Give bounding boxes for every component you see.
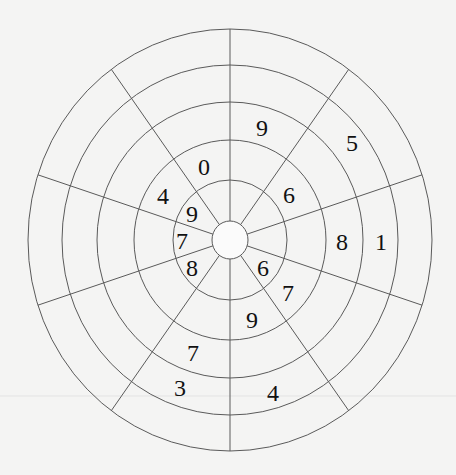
center-hub bbox=[212, 221, 248, 259]
cell-number: 8 bbox=[186, 255, 198, 281]
cell-number: 5 bbox=[346, 130, 358, 156]
cell-number: 7 bbox=[282, 280, 294, 306]
cell-number: 9 bbox=[256, 115, 268, 141]
cell-number: 7 bbox=[176, 228, 188, 254]
cell-number: 8 bbox=[336, 229, 348, 255]
numbers-group: 9504697818679734 bbox=[157, 115, 387, 406]
cell-number: 9 bbox=[186, 201, 198, 227]
cell-number: 6 bbox=[283, 182, 295, 208]
spoke-5 bbox=[111, 255, 219, 410]
cell-number: 9 bbox=[246, 307, 258, 333]
cell-number: 7 bbox=[187, 340, 199, 366]
cell-number: 3 bbox=[174, 375, 186, 401]
cell-number: 0 bbox=[198, 154, 210, 180]
cell-number: 4 bbox=[267, 380, 279, 406]
cell-number: 4 bbox=[157, 183, 169, 209]
cell-number: 1 bbox=[375, 229, 387, 255]
cell-number: 6 bbox=[257, 255, 269, 281]
spoke-9 bbox=[247, 175, 422, 234]
number-wheel: 9504697818679734 bbox=[0, 0, 456, 475]
diagram-canvas: 9504697818679734 bbox=[0, 0, 456, 475]
spoke-8 bbox=[247, 246, 422, 305]
